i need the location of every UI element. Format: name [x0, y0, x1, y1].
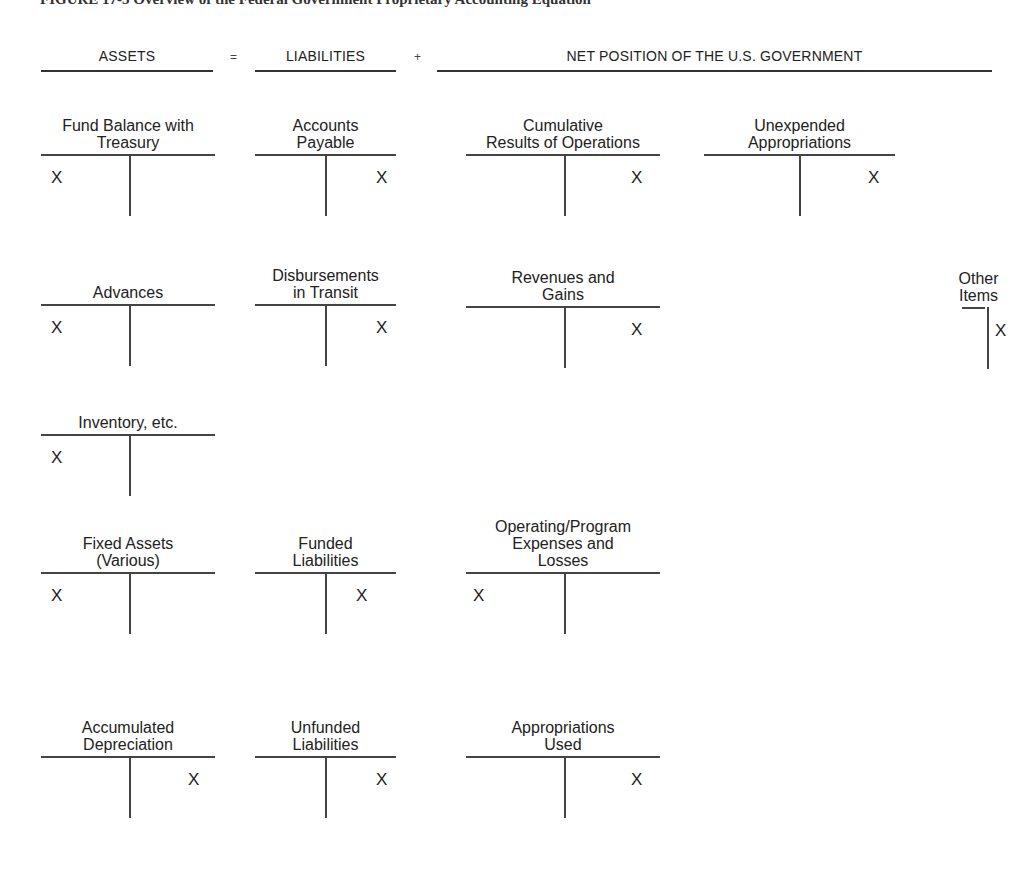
net-position-heading: NET POSITION OF THE U.S. GOVERNMENT	[437, 48, 992, 64]
t-account-stem	[129, 572, 131, 634]
credit-mark: X	[631, 770, 642, 790]
t-account-top-rule	[41, 756, 215, 758]
t-account-stem	[129, 304, 131, 366]
debit-mark: X	[51, 168, 62, 188]
t-account-top-rule	[41, 434, 215, 436]
t-account-stem	[564, 756, 566, 818]
account-name: AccumulatedDepreciation	[41, 719, 215, 756]
plus-sign: +	[414, 50, 421, 64]
figure-title: FIGURE 17-3 Overview of the Federal Gove…	[40, 0, 591, 8]
credit-mark: X	[631, 320, 642, 340]
account-name: CumulativeResults of Operations	[466, 117, 660, 154]
debit-mark: X	[473, 586, 484, 606]
account-name: Revenues andGains	[466, 269, 660, 306]
account-name: UnexpendedAppropriations	[704, 117, 895, 154]
account-name: FundedLiabilities	[255, 535, 396, 572]
credit-mark: X	[376, 770, 387, 790]
t-account-stem	[564, 306, 566, 368]
account-name: Inventory, etc.	[41, 414, 215, 434]
t-account-top-rule	[41, 572, 215, 574]
account-name: Disbursementsin Transit	[255, 267, 396, 304]
account-name: Advances	[41, 284, 215, 304]
t-account-stem	[799, 154, 801, 216]
t-account-stem	[325, 154, 327, 216]
account-name: AppropriationsUsed	[466, 719, 660, 756]
t-account-stem	[325, 572, 327, 634]
t-account-stem	[129, 154, 131, 216]
credit-mark: X	[868, 168, 879, 188]
assets-heading-rule	[41, 70, 213, 72]
debit-mark: X	[51, 318, 62, 338]
account-name: Fixed Assets(Various)	[41, 535, 215, 572]
assets-heading: ASSETS	[41, 48, 213, 64]
t-account-top-rule	[466, 306, 660, 308]
account-name: Operating/ProgramExpenses andLosses	[466, 518, 660, 572]
account-name: UnfundedLiabilities	[255, 719, 396, 756]
t-account-top-rule	[466, 756, 660, 758]
t-account-stem	[129, 434, 131, 496]
credit-mark: X	[995, 321, 1006, 341]
t-account-stem	[325, 756, 327, 818]
account-name: OtherItems	[952, 270, 1005, 307]
t-account-top-rule	[41, 154, 215, 156]
credit-mark: X	[631, 168, 642, 188]
liabilities-heading-rule	[255, 70, 396, 72]
t-account-stem	[564, 572, 566, 634]
account-name: Fund Balance withTreasury	[41, 117, 215, 154]
liabilities-heading: LIABILITIES	[255, 48, 396, 64]
account-name: AccountsPayable	[255, 117, 396, 154]
net-position-heading-rule	[437, 70, 992, 72]
credit-mark: X	[376, 318, 387, 338]
equals-sign: =	[230, 50, 237, 64]
credit-mark: X	[376, 168, 387, 188]
t-account-top-rule	[466, 572, 660, 574]
t-account-stem	[987, 307, 989, 369]
t-account-stem	[129, 756, 131, 818]
t-account-top-rule	[466, 154, 660, 156]
credit-mark: X	[356, 586, 367, 606]
t-account-top-rule	[41, 304, 215, 306]
t-account-stem	[325, 304, 327, 366]
t-account-stem	[564, 154, 566, 216]
t-account-top-rule	[962, 307, 985, 309]
debit-mark: X	[51, 448, 62, 468]
debit-mark: X	[51, 586, 62, 606]
credit-mark: X	[188, 770, 199, 790]
